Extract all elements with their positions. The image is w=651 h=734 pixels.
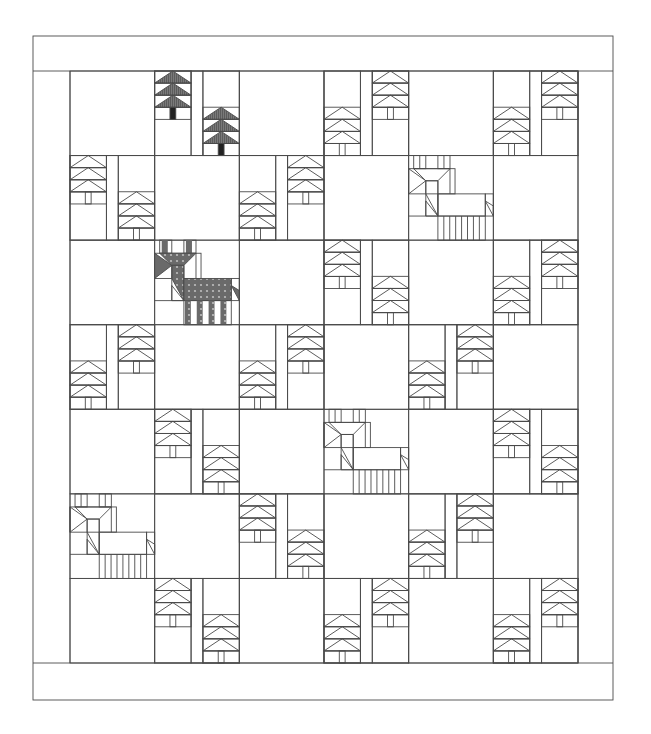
- tree-tier-background: [409, 530, 445, 542]
- tree: [70, 361, 106, 409]
- deer-head: [341, 434, 353, 469]
- tree-strip-gap: [276, 156, 288, 241]
- tree-trunk: [218, 482, 224, 494]
- tree-tier-background: [493, 627, 529, 639]
- quilt-block-blank: [324, 156, 409, 241]
- tree-trunk: [85, 192, 91, 204]
- tree-tier-background: [288, 337, 324, 349]
- trunk-row: [288, 361, 324, 373]
- tree-trunk: [509, 143, 515, 155]
- tree-trunk: [170, 446, 176, 458]
- block-square: [155, 409, 240, 494]
- tree-tier: [155, 83, 191, 95]
- deer-neck-corner: [341, 455, 353, 470]
- tree-tier: [155, 578, 191, 590]
- tree-strip-left: [324, 240, 360, 325]
- tree-trunk: [509, 651, 515, 663]
- block-square: [70, 325, 155, 410]
- tree-trunk: [303, 192, 309, 204]
- tree-tier: [457, 337, 493, 349]
- tree-strip-right: [457, 494, 493, 579]
- tree-tier-background: [324, 119, 360, 131]
- tree-tier: [457, 506, 493, 518]
- trunk-row: [288, 192, 324, 204]
- tree-tier-background: [288, 349, 324, 361]
- tree-tier-background: [324, 107, 360, 119]
- tree-tier-background: [457, 494, 493, 506]
- block-square: [239, 325, 324, 410]
- tree-tier: [70, 385, 106, 397]
- quilt-block-deer: [70, 494, 155, 579]
- tree-trunk: [255, 228, 261, 240]
- tree-tier: [372, 288, 408, 300]
- tree-tier-background: [542, 240, 578, 252]
- tree-trunk: [557, 107, 563, 119]
- tree-trunk: [472, 361, 478, 373]
- quilt-block-trees-ll: [324, 71, 409, 156]
- block-square: [409, 71, 494, 156]
- tree-tier-background: [155, 433, 191, 445]
- tree-tier: [457, 518, 493, 530]
- tree-tier-background: [493, 276, 529, 288]
- outer-border: [33, 36, 613, 700]
- tree-tier-background: [70, 156, 106, 168]
- tree-trunk: [255, 397, 261, 409]
- trunk-row: [324, 651, 360, 663]
- tree: [372, 578, 408, 626]
- tree: [324, 240, 360, 288]
- tree-strip-gap: [530, 409, 542, 494]
- block-square: [409, 494, 494, 579]
- tree-tier: [70, 361, 106, 373]
- block-square: [493, 578, 578, 663]
- trunk-row: [155, 446, 191, 458]
- tree-tier: [155, 433, 191, 445]
- deer-leg: [197, 301, 203, 325]
- trunk-row: [288, 566, 324, 578]
- tree-strip-right: [542, 578, 578, 663]
- tree-tier: [372, 603, 408, 615]
- tree-tier: [542, 264, 578, 276]
- deer-body: [438, 194, 485, 216]
- quilt-block-trees-lh: [324, 240, 409, 325]
- tree-tier-background: [324, 615, 360, 627]
- tree-trunk: [424, 397, 430, 409]
- tree-trunk: [339, 143, 345, 155]
- block-square: [493, 240, 578, 325]
- tree-strip-left: [493, 240, 529, 325]
- deer-leg: [185, 301, 191, 325]
- tree-tier-background: [542, 603, 578, 615]
- quilt-block-trees-ll: [493, 71, 578, 156]
- tree-strip-right: [457, 325, 493, 410]
- tree-tier-background: [493, 615, 529, 627]
- tree-tier: [324, 264, 360, 276]
- block-square: [239, 409, 324, 494]
- deer-tail: [401, 455, 409, 470]
- tree-tier-background: [118, 204, 154, 216]
- trunk-row: [409, 397, 445, 409]
- tree-tier-background: [372, 591, 408, 603]
- tree-tier: [288, 168, 324, 180]
- tree-tier-background: [324, 252, 360, 264]
- tree-strip-gap: [191, 71, 203, 156]
- tree-tier: [155, 71, 191, 83]
- tree-strip-gap: [360, 578, 372, 663]
- tree-tier: [288, 180, 324, 192]
- quilt-block-trees-ll: [493, 240, 578, 325]
- tree: [203, 445, 239, 493]
- tree: [493, 409, 529, 457]
- tree: [493, 107, 529, 155]
- tree-tier: [324, 107, 360, 119]
- trunk-row: [239, 530, 275, 542]
- tree-tier-background: [203, 615, 239, 627]
- deer-head: [426, 181, 438, 216]
- tree-tier-background: [493, 433, 529, 445]
- tree-tier: [372, 591, 408, 603]
- tree-tier: [372, 276, 408, 288]
- tree-trunk: [134, 228, 140, 240]
- tree-tier-background: [288, 180, 324, 192]
- quilt-block-blank: [324, 494, 409, 579]
- tree-tier: [324, 639, 360, 651]
- tree-tier: [409, 554, 445, 566]
- tree-tier: [324, 252, 360, 264]
- quilt-block-deer-color: [155, 240, 240, 325]
